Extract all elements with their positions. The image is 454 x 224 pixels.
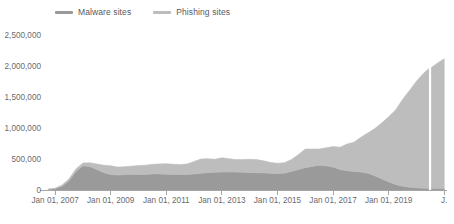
y-tick-label: 2,000,000 — [0, 62, 41, 71]
chart-canvas — [0, 0, 454, 224]
x-tick-label: Jan 01, 2013 — [198, 196, 245, 205]
x-tick-label: Jan 01, 2015 — [254, 196, 301, 205]
axis-layer — [40, 191, 447, 195]
area-series-phishing-sites — [48, 59, 444, 190]
x-tick-label: J. — [441, 196, 447, 205]
data-gap-break — [429, 33, 431, 190]
x-tick-label: Jan 01, 2019 — [365, 196, 412, 205]
y-tick-label: 500,000 — [0, 155, 41, 164]
x-axis: Jan 01, 2007Jan 01, 2009Jan 01, 2011Jan … — [0, 196, 454, 216]
plot-area: 0500,0001,000,0001,500,0002,000,0002,500… — [0, 0, 454, 224]
y-tick-label: 1,500,000 — [0, 93, 41, 102]
y-tick-label: 1,000,000 — [0, 124, 41, 133]
x-tick-label: Jan 01, 2009 — [87, 196, 134, 205]
x-tick-label: Jan 01, 2017 — [309, 196, 356, 205]
x-tick-label: Jan 01, 2011 — [143, 196, 190, 205]
series-layer — [48, 33, 444, 190]
y-axis: 0500,0001,000,0001,500,0002,000,0002,500… — [0, 0, 41, 224]
x-tick-label: Jan 01, 2007 — [31, 196, 78, 205]
safe-browsing-area-chart: Malware sites Phishing sites 0500,0001,0… — [0, 0, 454, 224]
y-tick-label: 0 — [0, 186, 41, 195]
y-tick-label: 2,500,000 — [0, 31, 41, 40]
